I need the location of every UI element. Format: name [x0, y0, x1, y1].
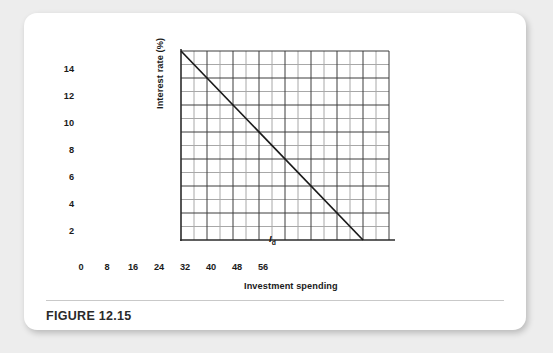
y-tick-label: 14 [54, 64, 74, 74]
figure-screenshot: Interest rate (%) Investment spending 2 … [0, 0, 553, 353]
figure-caption: FIGURE 12.15 [46, 309, 132, 323]
x-tick-label: 8 [96, 262, 118, 272]
x-tick-label: 16 [122, 262, 144, 272]
y-tick-label: 6 [54, 172, 74, 182]
y-tick-label: 4 [54, 199, 74, 209]
chart-region: Interest rate (%) Investment spending 2 … [24, 13, 526, 275]
x-axis-title: Investment spending [244, 281, 338, 291]
y-tick-label: 2 [54, 226, 74, 236]
curve-label-id: Id [269, 233, 276, 246]
plot-svg [152, 25, 412, 265]
y-tick-label: 10 [54, 118, 74, 128]
figure-card: Interest rate (%) Investment spending 2 … [24, 13, 526, 330]
y-tick-label: 12 [54, 91, 74, 101]
curve-label-subscript: d [272, 239, 276, 246]
caption-divider [46, 300, 504, 301]
y-tick-label: 8 [54, 145, 74, 155]
x-tick-label: 0 [70, 262, 92, 272]
